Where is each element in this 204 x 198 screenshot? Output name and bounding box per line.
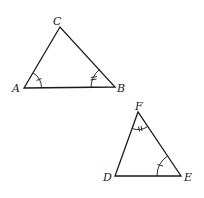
vertex-label-c: C — [53, 15, 62, 28]
triangle-def-outline — [115, 112, 181, 176]
vertex-label-e: E — [183, 171, 192, 184]
diagram-canvas: C A B F D E — [0, 0, 204, 198]
triangle-abc-outline — [24, 27, 115, 88]
vertex-label-d: D — [102, 171, 112, 184]
vertex-label-f: F — [134, 100, 143, 113]
angle-b-marker-icon — [91, 70, 100, 88]
triangle-abc: C A B — [11, 15, 125, 95]
angle-a-marker-icon — [33, 73, 41, 88]
triangle-def: F D E — [102, 100, 192, 184]
vertex-label-a: A — [11, 82, 20, 95]
angle-e-marker-icon — [157, 156, 168, 176]
vertex-label-b: B — [116, 82, 125, 95]
angle-f-marker-icon — [132, 126, 148, 132]
